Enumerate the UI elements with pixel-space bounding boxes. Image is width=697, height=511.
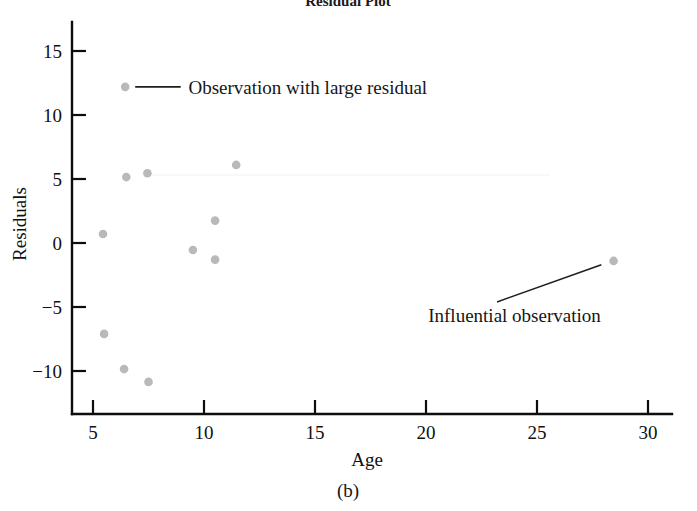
data-point bbox=[211, 255, 220, 264]
x-tick-label: 15 bbox=[306, 422, 325, 443]
y-axis-tick-labels: 15 10 5 0 −5 −10 bbox=[32, 41, 62, 382]
annotation-label: Observation with large residual bbox=[188, 77, 427, 98]
x-axis-tick-labels: 5 10 15 20 25 30 bbox=[88, 422, 657, 443]
y-tick-label: −5 bbox=[42, 297, 62, 318]
annotation-leader-line bbox=[497, 265, 601, 302]
x-axis-ticks bbox=[93, 400, 648, 414]
annotations-layer: Observation with large residualInfluenti… bbox=[121, 77, 601, 326]
x-tick-label: 20 bbox=[417, 422, 436, 443]
y-tick-label: −10 bbox=[32, 361, 62, 382]
data-point bbox=[609, 257, 618, 266]
x-tick-label: 10 bbox=[195, 422, 214, 443]
y-axis-ticks bbox=[72, 51, 86, 371]
annotation-influential-observation: Influential observation bbox=[428, 265, 601, 326]
data-point bbox=[122, 173, 131, 182]
annotation-label: Influential observation bbox=[428, 305, 601, 326]
y-tick-label: 10 bbox=[43, 105, 62, 126]
y-tick-label: 15 bbox=[43, 41, 62, 62]
y-tick-label: 0 bbox=[53, 233, 63, 254]
annotation-large-residual: Observation with large residual bbox=[121, 77, 427, 98]
data-point bbox=[120, 365, 129, 374]
y-tick-label: 5 bbox=[53, 169, 63, 190]
annotation-marker-point bbox=[121, 83, 130, 92]
data-point bbox=[99, 230, 108, 239]
data-point bbox=[100, 330, 109, 339]
chart-title: Residual Plot bbox=[305, 0, 390, 9]
data-point bbox=[211, 216, 220, 225]
data-point bbox=[232, 161, 241, 170]
y-axis-label: Residuals bbox=[9, 187, 30, 261]
panel-caption: (b) bbox=[337, 480, 359, 502]
data-points-layer bbox=[99, 161, 618, 387]
data-point bbox=[143, 169, 152, 178]
x-tick-label: 5 bbox=[88, 422, 98, 443]
residual-plot-figure: Residual Plot 15 10 5 0 −5 −10 bbox=[0, 0, 697, 511]
data-point bbox=[144, 378, 153, 387]
x-tick-label: 30 bbox=[639, 422, 658, 443]
data-point bbox=[189, 246, 198, 255]
x-tick-label: 25 bbox=[528, 422, 547, 443]
x-axis-label: Age bbox=[351, 449, 383, 470]
residual-plot-svg: Residual Plot 15 10 5 0 −5 −10 bbox=[0, 0, 697, 511]
